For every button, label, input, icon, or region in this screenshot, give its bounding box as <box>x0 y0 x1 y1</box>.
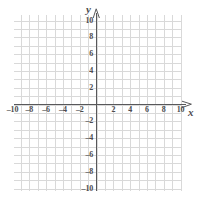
y-axis-name-label: y <box>86 4 91 15</box>
y-tick-label: –10 <box>0 185 93 193</box>
grid-line-vertical <box>80 15 81 191</box>
y-axis-line <box>96 13 97 191</box>
x-tick-label: 10 <box>177 106 185 114</box>
x-tick-label: –6 <box>42 106 50 114</box>
grid-line-horizontal <box>14 130 182 131</box>
grid-line-horizontal <box>14 113 182 114</box>
y-tick-label: –4 <box>0 134 93 142</box>
grid-line-vertical <box>155 15 156 191</box>
x-tick-label: –8 <box>25 106 33 114</box>
x-axis-name-label: x <box>188 107 194 118</box>
grid-line-vertical <box>71 15 72 191</box>
grid-line-vertical <box>88 15 89 191</box>
grid-line-vertical <box>63 15 64 191</box>
grid-line-vertical <box>130 15 131 191</box>
y-tick-label: –2 <box>0 117 93 125</box>
grid-line-vertical <box>147 15 148 191</box>
x-tick-label: 4 <box>128 106 132 114</box>
grid-line-horizontal <box>14 96 182 97</box>
grid-line-vertical <box>46 15 47 191</box>
y-tick-label: 8 <box>0 33 93 41</box>
x-tick-label: 6 <box>145 106 149 114</box>
grid-line-vertical <box>29 15 30 191</box>
grid-line-vertical <box>105 15 106 191</box>
grid-line-horizontal <box>14 163 182 164</box>
y-tick-label: –8 <box>0 168 93 176</box>
grid-line-horizontal <box>14 180 182 181</box>
grid-line-vertical <box>139 15 140 191</box>
grid-line-vertical <box>113 15 114 191</box>
grid-line-horizontal <box>14 46 182 47</box>
grid-line-vertical <box>21 15 22 191</box>
grid-line-horizontal <box>14 29 182 30</box>
x-tick-label: –2 <box>76 106 84 114</box>
grid-line-vertical <box>38 15 39 191</box>
x-tick-label: 8 <box>162 106 166 114</box>
y-tick-label: 2 <box>0 84 93 92</box>
grid-line-horizontal <box>14 79 182 80</box>
grid-line-vertical <box>172 15 173 191</box>
grid-line-vertical <box>55 15 56 191</box>
x-tick-label: –10 <box>7 106 18 114</box>
x-tick-label: –4 <box>59 106 67 114</box>
y-tick-label: 4 <box>0 67 93 75</box>
y-tick-label: 10 <box>0 17 93 25</box>
x-tick-label: 2 <box>111 106 115 114</box>
coordinate-plane-figure: x y –10–8–6–4–2246810 108642–2–4–6–8–10 <box>0 0 203 202</box>
grid-line-horizontal <box>14 147 182 148</box>
grid-line-horizontal <box>14 63 182 64</box>
y-tick-label: –6 <box>0 151 93 159</box>
grid-line-vertical <box>122 15 123 191</box>
x-axis-line <box>14 104 186 105</box>
y-tick-label: 6 <box>0 50 93 58</box>
grid-area <box>14 15 182 191</box>
grid-line-vertical <box>164 15 165 191</box>
